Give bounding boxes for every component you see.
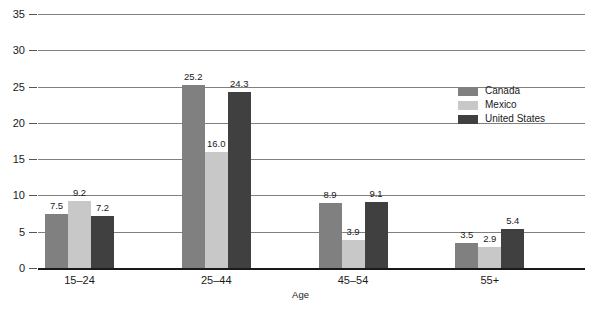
- y-tick-label: 15: [0, 154, 25, 165]
- legend: Canada Mexico United States: [458, 85, 545, 127]
- legend-label-canada: Canada: [485, 86, 520, 96]
- legend-swatch-united-states: [458, 115, 478, 124]
- bar-group: [319, 14, 388, 268]
- y-tick-label: 0: [0, 263, 25, 274]
- bar: [455, 243, 478, 268]
- legend-item-united-states: United States: [458, 113, 545, 125]
- legend-swatch-canada: [458, 87, 478, 96]
- bar-group: [182, 14, 251, 268]
- y-tick-mark: [29, 159, 37, 160]
- legend-item-canada: Canada: [458, 85, 545, 97]
- legend-label-mexico: Mexico: [485, 100, 517, 110]
- y-tick-mark: [29, 50, 37, 51]
- bar-chart: 05101520253035 7.59.27.225.216.024.38.93…: [0, 0, 601, 315]
- bar: [478, 247, 501, 268]
- legend-label-united-states: United States: [485, 114, 545, 124]
- x-category-label: 45–54: [293, 274, 413, 286]
- bar-group: [455, 14, 524, 268]
- y-tick-mark: [29, 123, 37, 124]
- x-category-label: 55+: [430, 274, 550, 286]
- bar: [91, 216, 114, 268]
- x-category-label: 15–24: [20, 274, 140, 286]
- y-tick-mark: [29, 232, 37, 233]
- y-tick-label: 25: [0, 82, 25, 93]
- bar: [228, 92, 251, 268]
- legend-swatch-mexico: [458, 101, 478, 110]
- bar-group: [45, 14, 114, 268]
- y-tick-label: 10: [0, 190, 25, 201]
- bar: [68, 201, 91, 268]
- y-tick-mark: [29, 87, 37, 88]
- x-axis-title: Age: [0, 289, 601, 300]
- y-tick-label: 35: [0, 9, 25, 20]
- y-tick-mark: [29, 195, 37, 196]
- bar: [182, 85, 205, 268]
- bar: [342, 240, 365, 268]
- y-tick-label: 30: [0, 45, 25, 56]
- y-tick-mark: [29, 14, 37, 15]
- x-axis-baseline: [38, 268, 585, 270]
- bar: [45, 214, 68, 268]
- x-category-label: 25–44: [156, 274, 276, 286]
- y-tick-mark: [29, 268, 37, 269]
- bar: [319, 203, 342, 268]
- bar: [205, 152, 228, 268]
- y-tick-label: 20: [0, 118, 25, 129]
- bar: [501, 229, 524, 268]
- bar: [365, 202, 388, 268]
- y-tick-label: 5: [0, 227, 25, 238]
- legend-item-mexico: Mexico: [458, 99, 545, 111]
